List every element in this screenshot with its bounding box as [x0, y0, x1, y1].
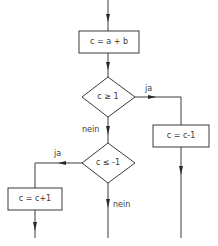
- assign-box-text: c = a + b: [90, 38, 128, 46]
- cond1-yes-arrow-icon: [148, 95, 156, 99]
- increment-exit-arrow-icon: [33, 222, 37, 231]
- cond2-yes-label: ja: [54, 150, 61, 158]
- cond2-yes-arrow-icon: [58, 161, 66, 165]
- assign-to-cond1-arrow-icon: [106, 62, 110, 70]
- cond2-no-label: nein: [113, 201, 130, 209]
- cond1-no-label: nein: [82, 126, 99, 134]
- decrement-box-text: c = c-1: [167, 132, 196, 140]
- cond1-yes-connector: [135, 97, 181, 125]
- cond1-text: c ≥ 1: [97, 93, 118, 101]
- cond2-yes-connector: [35, 163, 82, 188]
- decrement-exit-arrow-icon: [179, 166, 183, 175]
- cond1-yes-label: ja: [145, 85, 152, 93]
- cond2-text: c ≤ -1: [96, 159, 120, 167]
- increment-box-text: c = c+1: [19, 195, 51, 203]
- entry-arrow-icon: [106, 14, 110, 22]
- cond1-no-arrow-icon: [106, 126, 110, 135]
- cond2-no-arrow-icon: [106, 199, 110, 208]
